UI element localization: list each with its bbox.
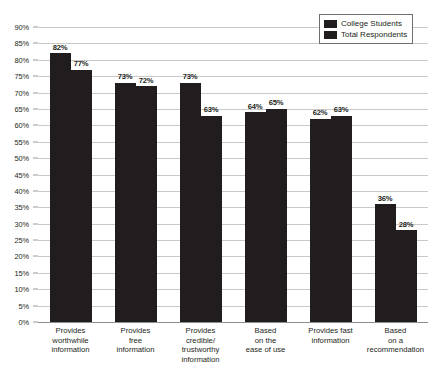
y-axis-tick-label: 70% (0, 88, 29, 97)
chart-legend: College StudentsTotal Respondents (319, 14, 413, 44)
y-axis-tick-label: 75% (0, 72, 29, 81)
gridline (38, 207, 428, 208)
bar-group: 36%28% (375, 27, 417, 322)
y-axis-tick-mark (33, 43, 38, 44)
x-axis-category-label: Providesworthwhileinformation (38, 326, 103, 355)
y-axis-tick-label: 5% (0, 301, 29, 310)
x-axis-category-label: Basedon theease of use (233, 326, 298, 355)
bar (396, 230, 417, 322)
bar-value-label: 63% (334, 105, 349, 114)
y-axis-tick-mark (33, 174, 38, 175)
y-axis-tick-label: 80% (0, 55, 29, 64)
x-axis-category-line: Based (233, 326, 298, 336)
y-axis-tick-label: 10% (0, 285, 29, 294)
y-axis-tick-label: 35% (0, 203, 29, 212)
x-axis-category-label: Provides fastinformation (298, 326, 363, 345)
y-axis-tick-mark (33, 59, 38, 60)
x-axis-category-line: credible/ (168, 336, 233, 346)
plot-area: 82%77%73%72%73%63%64%65%62%63%36%28% (38, 27, 428, 322)
y-axis-tick-label: 20% (0, 252, 29, 261)
y-axis-tick-mark (33, 223, 38, 224)
y-axis-tick-label: 15% (0, 268, 29, 277)
axis-baseline (38, 322, 428, 323)
bar-value-label: 65% (269, 98, 284, 107)
y-axis-tick-label: 65% (0, 104, 29, 113)
y-axis-tick-mark (33, 108, 38, 109)
bar (266, 109, 287, 322)
y-axis: 90%85%80%75%70%65%60%55%50%45%40%35%30%2… (0, 27, 33, 322)
bar-chart: 90%85%80%75%70%65%60%55%50%45%40%35%30%2… (0, 0, 437, 382)
gridline (38, 289, 428, 290)
y-axis-tick-label: 90% (0, 23, 29, 32)
bar (180, 83, 201, 322)
y-axis-tick-mark (33, 125, 38, 126)
x-axis-category-line: information (38, 345, 103, 355)
bar-value-label: 72% (139, 76, 154, 85)
x-axis-category-line: on a (363, 336, 428, 346)
y-axis-tick-label: 50% (0, 154, 29, 163)
y-axis-tick-label: 30% (0, 219, 29, 228)
bar-value-label: 73% (118, 72, 133, 81)
x-axis-category-line: recommendation (363, 345, 428, 355)
gridline (38, 175, 428, 176)
gridline (38, 224, 428, 225)
gridline (38, 240, 428, 241)
y-axis-tick-label: 40% (0, 186, 29, 195)
gridline (38, 93, 428, 94)
y-axis-tick-label: 25% (0, 236, 29, 245)
bar-value-label: 28% (399, 220, 414, 229)
bar-value-label: 64% (248, 102, 263, 111)
y-axis-tick-mark (33, 305, 38, 306)
bar (115, 83, 136, 322)
bar-group: 73%72% (115, 27, 157, 322)
x-axis-category-line: Provides (168, 326, 233, 336)
y-axis-tick-mark (33, 272, 38, 273)
bar (136, 86, 157, 322)
y-axis-tick-label: 55% (0, 137, 29, 146)
y-axis-tick-mark (33, 27, 38, 28)
y-axis-tick-mark (33, 207, 38, 208)
bar-value-label: 63% (204, 105, 219, 114)
x-axis-category-line: Provides (103, 326, 168, 336)
gridline (38, 273, 428, 274)
x-axis-category-line: information (103, 345, 168, 355)
y-axis-tick-mark (33, 322, 38, 323)
x-axis-category-line: worthwhile (38, 336, 103, 346)
bar (375, 204, 396, 322)
gridline (38, 256, 428, 257)
bar (71, 70, 92, 322)
bar-value-label: 36% (378, 194, 393, 203)
x-axis-category-line: ease of use (233, 345, 298, 355)
bar-group: 82%77% (50, 27, 92, 322)
x-axis-category-label: Providescredible/trustworthyinformation (168, 326, 233, 364)
bar-group: 64%65% (245, 27, 287, 322)
gridline (38, 142, 428, 143)
legend-swatch-icon (324, 31, 337, 39)
legend-item: Total Respondents (324, 29, 407, 40)
gridline (38, 109, 428, 110)
y-axis-tick-label: 85% (0, 39, 29, 48)
gridline (38, 76, 428, 77)
gridline (38, 158, 428, 159)
y-axis-tick-mark (33, 92, 38, 93)
bar (245, 112, 266, 322)
y-axis-tick-label: 60% (0, 121, 29, 130)
y-axis-tick-mark (33, 141, 38, 142)
bar-value-label: 62% (313, 108, 328, 117)
x-axis-category-line: free (103, 336, 168, 346)
y-axis-tick-label: 0% (0, 318, 29, 327)
x-axis-category-line: information (168, 355, 233, 365)
y-axis-tick-mark (33, 76, 38, 77)
bar-group: 62%63% (310, 27, 352, 322)
gridline (38, 125, 428, 126)
y-axis-tick-mark (33, 256, 38, 257)
x-axis-category-line: on the (233, 336, 298, 346)
y-axis-tick-mark (33, 190, 38, 191)
gridline (38, 191, 428, 192)
bar-group: 73%63% (180, 27, 222, 322)
y-axis-tick-mark (33, 289, 38, 290)
x-axis-category-line: Provides fast (298, 326, 363, 336)
y-axis-tick-mark (33, 158, 38, 159)
gridline (38, 306, 428, 307)
x-axis-category-label: Basedon arecommendation (363, 326, 428, 355)
